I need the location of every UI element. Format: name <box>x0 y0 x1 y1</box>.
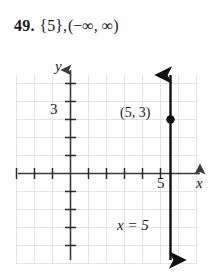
x-tick-label: 5 <box>157 176 165 191</box>
exercise-number: 49. <box>14 17 35 34</box>
answer-line: 49.{5},(−∞, ∞) <box>14 14 204 38</box>
graph-canvas <box>0 48 215 272</box>
solution-set: {5}, <box>40 17 67 34</box>
x-axis-label: x <box>196 176 203 191</box>
point-coordinate-label: (5, 3) <box>120 106 150 120</box>
y-axis-label: y <box>55 59 62 74</box>
line-equation-label: x = 5 <box>117 218 149 233</box>
coordinate-graph: y x 3 5 (5, 3) x = 5 <box>0 48 215 272</box>
plotted-point <box>166 115 174 123</box>
interval-notation: (−∞, ∞) <box>68 17 119 34</box>
y-tick-label: 3 <box>50 102 58 117</box>
